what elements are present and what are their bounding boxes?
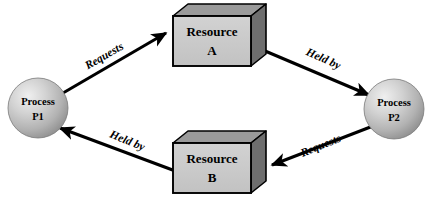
process-p2-sphere <box>364 79 424 139</box>
edge-resource-b-heldby-p1: Held by <box>60 127 178 172</box>
diagram-canvas: Requests Held by Requests Held by Resour… <box>0 0 431 206</box>
node-process-p2[interactable]: Process P2 <box>364 79 424 139</box>
edge-label-requests-p2-b: Requests <box>298 132 343 160</box>
process-p1-label-line2: P1 <box>32 111 44 122</box>
resource-a-side-face <box>251 4 266 66</box>
edge-p2-requests-resource-b: Requests <box>272 126 373 165</box>
process-p1-sphere <box>8 78 68 138</box>
node-resource-a[interactable]: Resource A <box>173 4 266 66</box>
resource-a-label-line1: Resource <box>186 24 237 39</box>
resource-b-label-line2: B <box>208 170 217 185</box>
deadlock-resource-allocation-diagram: Requests Held by Requests Held by Resour… <box>0 0 431 206</box>
edge-label-heldby-b-p1: Held by <box>107 127 148 154</box>
node-process-p1[interactable]: Process P1 <box>8 78 68 138</box>
process-p2-label-line2: P2 <box>388 112 400 123</box>
edge-resource-a-heldby-p2: Held by <box>258 45 369 95</box>
resource-b-side-face <box>251 131 266 193</box>
node-resource-b[interactable]: Resource B <box>173 131 266 193</box>
process-p1-label-line1: Process <box>21 96 55 107</box>
resource-a-label-line2: A <box>207 43 217 58</box>
process-p2-label-line1: Process <box>377 97 411 108</box>
resource-b-label-line1: Resource <box>186 151 237 166</box>
edge-p1-requests-resource-a: Requests <box>63 33 166 93</box>
